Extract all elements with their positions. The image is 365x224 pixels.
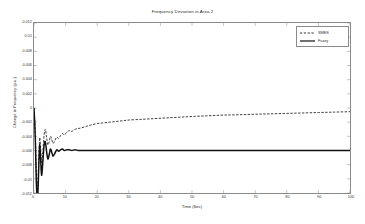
plot-area [33, 22, 351, 194]
y-tick-label: -0.004 [8, 135, 32, 139]
x-tick-label: 30 [118, 195, 138, 199]
legend: SMES Fuzzy [296, 26, 349, 47]
x-axis-label: Time (Sec) [33, 204, 351, 209]
y-tick-label: -0.006 [8, 149, 32, 153]
x-tick-label: 60 [214, 195, 234, 199]
legend-label-0: SMES [318, 31, 329, 35]
x-tick-label: 40 [150, 195, 170, 199]
y-tick-label: 0 [8, 106, 32, 110]
x-tick-label: 50 [182, 195, 202, 199]
legend-swatch-solid-icon [299, 38, 316, 44]
y-tick-label: 0.002 [8, 92, 32, 96]
y-tick-label: 0.006 [8, 63, 32, 67]
x-tick-label: 10 [55, 195, 75, 199]
figure-canvas: Frequency Deviation in Area 2 Change in … [0, 0, 365, 224]
series-line-0 [34, 108, 350, 186]
x-tick-label: 80 [277, 195, 297, 199]
series-line-1 [34, 108, 350, 193]
legend-swatch-dashed-icon [299, 30, 316, 36]
x-tick-label: 20 [87, 195, 107, 199]
legend-item: SMES [299, 29, 346, 37]
x-tick-label: 90 [309, 195, 329, 199]
x-tick-label: 100 [341, 195, 361, 199]
y-tick-label: 0.012 [8, 20, 32, 24]
y-tick-label: -0.01 [8, 178, 32, 182]
y-tick-label: -0.002 [8, 120, 32, 124]
x-tick-label: 0 [23, 195, 43, 199]
x-tick-label: 70 [246, 195, 266, 199]
y-tick-label: 0.004 [8, 77, 32, 81]
legend-item: Fuzzy [299, 37, 346, 45]
y-axis-tick-labels: 0.0120.010.0080.0060.0040.0020-0.002-0.0… [5, 22, 32, 194]
y-tick-label: -0.008 [8, 163, 32, 167]
y-tick-label: 0.008 [8, 49, 32, 53]
page-title: Frequency Deviation in Area 2 [0, 9, 365, 14]
legend-label-1: Fuzzy [318, 39, 328, 43]
plot-svg [34, 23, 350, 193]
y-tick-label: 0.01 [8, 34, 32, 38]
